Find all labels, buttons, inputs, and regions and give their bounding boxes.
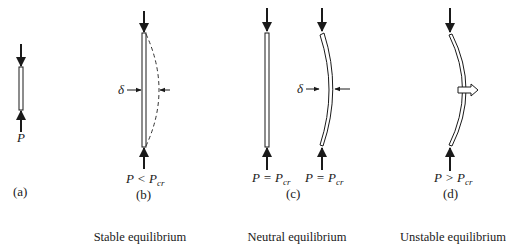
panel-c: P = Pcr δ P = Pcr (c) Neutral equilibriu…	[248, 8, 350, 244]
hollow-arrow-icon	[458, 84, 478, 96]
column-straight	[265, 33, 269, 147]
delta-label: δ	[118, 82, 125, 97]
panel-label: (d)	[443, 186, 458, 201]
delta-label: δ	[297, 81, 304, 96]
load-condition: P > Pcr	[433, 170, 473, 187]
column-bent	[320, 33, 333, 146]
column	[19, 67, 23, 110]
load-condition: P = Pcr	[251, 170, 291, 187]
load-condition: P < Pcr	[125, 171, 165, 188]
buckling-equilibrium-diagram: P (a) δ P < Pcr (b) Stable equilibrium P…	[0, 0, 506, 244]
panel-label: (c)	[286, 186, 300, 201]
load-condition: P = Pcr	[304, 170, 344, 187]
caption-neutral: Neutral equilibrium	[248, 230, 347, 244]
panel-label: (b)	[136, 187, 151, 202]
caption-unstable: Unstable equilibrium	[400, 230, 506, 244]
caption-stable: Stable equilibrium	[94, 230, 187, 244]
panel-a: P (a)	[13, 44, 27, 199]
panel-b: δ P < Pcr (b) Stable equilibrium	[94, 11, 187, 244]
deflected-shape-dashed	[146, 34, 159, 146]
column	[142, 33, 146, 147]
load-label: P	[16, 130, 25, 145]
panel-label: (a)	[13, 184, 27, 199]
panel-d: P > Pcr (d) Unstable equilibrium	[400, 8, 506, 244]
